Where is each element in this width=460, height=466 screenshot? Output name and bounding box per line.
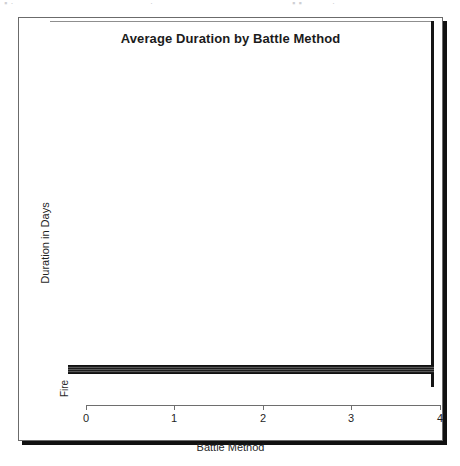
y-axis-title-text: Duration in Days bbox=[39, 202, 51, 283]
x-tick-label-3: 3 bbox=[336, 412, 366, 424]
x-tick-1 bbox=[174, 405, 175, 410]
x-tick-4 bbox=[440, 405, 441, 410]
x-tick-label-4: 4 bbox=[425, 412, 455, 424]
x-tick-2 bbox=[263, 405, 264, 410]
panel-top-border bbox=[50, 21, 434, 22]
x-tick-3 bbox=[351, 405, 352, 410]
artifact-fragment-3: ▪ ▪ bbox=[292, 0, 302, 8]
bar-fire[interactable] bbox=[68, 365, 434, 374]
artifact-fragment-4: · bbox=[332, 0, 335, 8]
y-tick-label-fire: Fire bbox=[58, 370, 72, 406]
x-tick-0 bbox=[86, 405, 87, 410]
artifact-fragment-1: ▪ · bbox=[4, 0, 14, 8]
x-tick-label-1: 1 bbox=[159, 412, 189, 424]
x-tick-label-0: 0 bbox=[71, 412, 101, 424]
artifact-fragment-2: · bbox=[150, 0, 153, 8]
x-axis-title: Battle Method bbox=[19, 441, 442, 453]
panel-right-border bbox=[431, 21, 434, 387]
plot-panel bbox=[50, 21, 434, 387]
chart-figure-frame: Average Duration by Battle Method Fire 0… bbox=[18, 17, 443, 441]
y-axis-title: Duration in Days bbox=[37, 168, 53, 318]
clipped-top-artifact: ▪ · · ▪ ▪ · bbox=[0, 0, 460, 9]
x-tick-label-2: 2 bbox=[248, 412, 278, 424]
y-tick-label-fire-text: Fire bbox=[60, 379, 71, 396]
